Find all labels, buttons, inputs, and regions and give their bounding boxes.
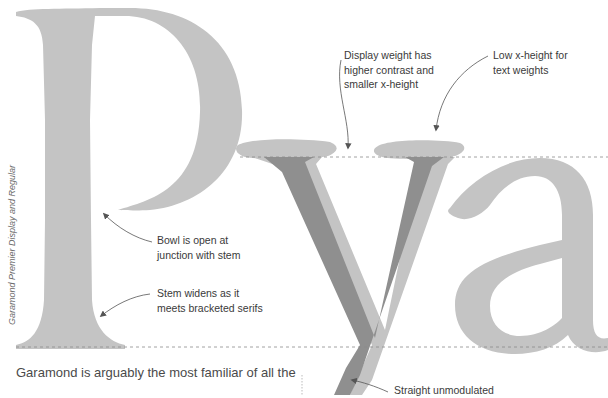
annotation-line: Low x-height for — [493, 48, 568, 63]
annotation-line: Display weight has — [344, 48, 434, 63]
body-paragraph: Garamond is arguably the most familiar o… — [16, 365, 296, 380]
side-caption: Garamond Premier Display and Regular — [7, 185, 17, 325]
annotation-line: Straight unmodulated — [394, 383, 494, 398]
arrow-low-x-height — [436, 56, 488, 130]
annotation-line: smaller x-height — [344, 77, 434, 92]
annotation-low-x-height: Low x-height for text weights — [493, 48, 568, 77]
annotation-display-weight: Display weight has higher contrast and s… — [344, 48, 434, 92]
arrow-bowl-open — [104, 214, 152, 242]
annotation-straight-unmodulated: Straight unmodulated — [394, 383, 494, 398]
annotation-line: higher contrast and — [344, 63, 434, 78]
annotation-line: junction with stem — [157, 248, 240, 263]
annotation-line: Stem widens as it — [157, 286, 263, 301]
glyph-y-regular — [236, 139, 464, 395]
glyph-a — [448, 158, 608, 354]
annotation-line: Bowl is open at — [157, 233, 240, 248]
annotation-line: meets bracketed serifs — [157, 301, 263, 316]
annotation-bowl-open: Bowl is open at junction with stem — [157, 233, 240, 262]
annotation-line: text weights — [493, 63, 568, 78]
arrow-stem-widens — [101, 294, 150, 316]
annotation-stem-widens: Stem widens as it meets bracketed serifs — [157, 286, 263, 315]
